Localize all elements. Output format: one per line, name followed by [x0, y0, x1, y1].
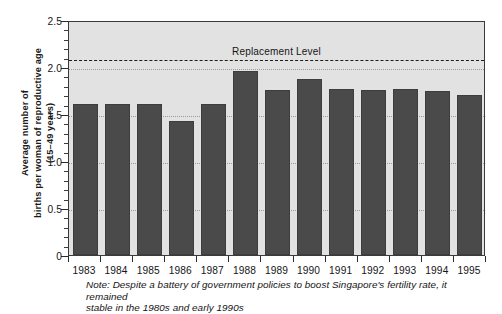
gridline: [69, 69, 484, 70]
y-tick-label: 0.5: [14, 204, 62, 215]
y-tick-label: 1.5: [14, 110, 62, 121]
bar-1989: [265, 90, 290, 255]
x-tick: [260, 256, 261, 262]
x-tick-label-1995: 1995: [446, 265, 492, 276]
y-tick-major: [61, 162, 68, 163]
y-tick-major: [61, 115, 68, 116]
bar-1985: [137, 104, 162, 255]
chart-note-line1: Note: Despite a battery of government po…: [86, 279, 447, 302]
x-tick: [485, 256, 486, 262]
x-tick: [293, 256, 294, 262]
bar-1988: [233, 71, 258, 255]
replacement-level-label: Replacement Level: [232, 46, 321, 57]
bar-1993: [393, 89, 418, 255]
y-tick-major: [61, 209, 68, 210]
x-tick: [100, 256, 101, 262]
y-tick-major: [61, 21, 68, 22]
bar-1992: [361, 90, 386, 255]
x-tick: [228, 256, 229, 262]
y-tick-label: 2.0: [14, 63, 62, 74]
bar-1984: [105, 104, 130, 255]
x-tick: [421, 256, 422, 262]
replacement-level-line: [69, 60, 484, 61]
x-tick: [164, 256, 165, 262]
bar-1995: [457, 95, 482, 255]
x-tick: [389, 256, 390, 262]
bar-1994: [425, 91, 450, 255]
bar-1990: [297, 79, 322, 255]
x-tick: [196, 256, 197, 262]
y-tick-label: 1.0: [14, 157, 62, 168]
x-tick: [453, 256, 454, 262]
x-tick: [68, 256, 69, 262]
y-axis-title-line2: births per woman of reproductive age: [33, 48, 43, 218]
y-tick-major: [61, 68, 68, 69]
x-tick: [357, 256, 358, 262]
x-tick: [132, 256, 133, 262]
y-tick-label: 2.5: [14, 16, 62, 27]
bar-1991: [329, 89, 354, 255]
bar-1986: [169, 121, 194, 255]
bar-1983: [73, 104, 98, 255]
chart-note-line2: stable in the 1980s and early 1990s: [86, 302, 244, 313]
bar-1987: [201, 104, 226, 255]
y-tick-label: 0: [14, 251, 62, 262]
chart-note: Note: Despite a battery of government po…: [86, 279, 486, 314]
y-tick-major: [61, 256, 68, 257]
x-tick: [325, 256, 326, 262]
